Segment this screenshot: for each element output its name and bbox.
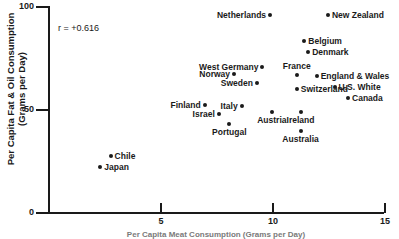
data-point — [302, 39, 306, 43]
data-point-label: Denmark — [312, 47, 348, 56]
data-point-label: Australia — [282, 135, 318, 144]
y-tick-label: 100 — [8, 2, 34, 11]
y-tick-label: 0 — [8, 208, 34, 217]
data-point — [299, 110, 303, 114]
data-point — [232, 72, 236, 76]
scatter-plot: Per Capita Fat & Oil Consumption (Grams … — [0, 0, 399, 239]
x-axis-line — [48, 212, 384, 214]
data-point — [260, 65, 264, 69]
data-point — [98, 165, 102, 169]
data-point — [268, 13, 272, 17]
data-point — [270, 110, 274, 114]
data-point-label: U.S. White — [339, 82, 381, 91]
x-tick-label: 10 — [268, 216, 278, 226]
y-tick-mark — [36, 109, 49, 111]
data-point — [306, 50, 310, 54]
data-point — [295, 87, 299, 91]
data-point — [333, 85, 337, 89]
data-point-label: Chile — [115, 152, 136, 161]
data-point — [240, 104, 244, 108]
data-point-label: Sweden — [221, 78, 253, 87]
data-point-label: Canada — [352, 94, 383, 103]
x-tick-mark — [384, 203, 386, 213]
y-axis-title: Per Capita Fat & Oil Consumption (Grams … — [5, 0, 27, 189]
data-point-label: Israel — [193, 109, 215, 118]
data-point-label: France — [283, 62, 311, 71]
y-tick-mark — [36, 212, 49, 214]
correlation-annotation: r = +0.616 — [58, 23, 99, 33]
data-point-label: Japan — [104, 163, 129, 172]
data-point-label: New Zealand — [332, 11, 384, 20]
data-point — [346, 96, 350, 100]
data-point — [326, 13, 330, 17]
data-point-label: Belgium — [308, 36, 342, 45]
data-point — [217, 112, 221, 116]
x-tick-label: 5 — [158, 216, 163, 226]
data-point — [255, 81, 259, 85]
y-tick-label: 50 — [8, 105, 34, 114]
data-point-label: Italy — [221, 102, 238, 111]
data-point-label: England & Wales — [321, 71, 390, 80]
data-point-label: Ireland — [287, 116, 315, 125]
x-tick-mark — [272, 203, 274, 213]
data-point — [109, 154, 113, 158]
data-point — [299, 129, 303, 133]
x-axis-title: Per Capita Meat Consumption (Grams per D… — [48, 230, 384, 239]
data-point — [227, 122, 231, 126]
data-point-label: Netherlands — [217, 11, 266, 20]
x-tick-mark — [160, 203, 162, 213]
data-point-label: Austria — [257, 116, 286, 125]
data-point-label: Portugal — [212, 128, 246, 137]
y-tick-mark — [36, 6, 49, 8]
x-tick-label: 15 — [380, 216, 390, 226]
data-point — [203, 103, 207, 107]
data-point — [295, 73, 299, 77]
data-point — [315, 74, 319, 78]
